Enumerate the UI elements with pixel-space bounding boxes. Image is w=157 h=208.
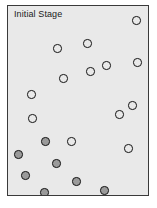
data-point-filled-4	[72, 177, 80, 185]
data-points-layer	[8, 6, 148, 195]
data-point-open-8	[28, 114, 36, 122]
data-point-open-5	[86, 67, 94, 75]
data-point-open-1	[53, 44, 61, 52]
data-point-open-0	[132, 16, 140, 24]
data-point-open-9	[128, 101, 136, 109]
data-point-open-11	[124, 144, 132, 152]
scatter-figure: Initial Stage	[0, 0, 157, 208]
data-point-open-12	[67, 137, 75, 145]
data-point-filled-3	[21, 171, 29, 179]
data-point-open-2	[83, 39, 91, 47]
data-point-filled-0	[41, 137, 49, 145]
data-point-filled-6	[100, 186, 108, 194]
data-point-open-7	[27, 90, 35, 98]
data-point-open-6	[59, 74, 67, 82]
data-point-open-4	[102, 61, 110, 69]
data-point-filled-1	[14, 150, 22, 158]
data-point-open-3	[133, 58, 141, 66]
data-point-filled-5	[40, 188, 48, 196]
plot-area: Initial Stage	[7, 5, 149, 196]
data-point-open-10	[115, 110, 123, 118]
data-point-filled-2	[52, 159, 60, 167]
